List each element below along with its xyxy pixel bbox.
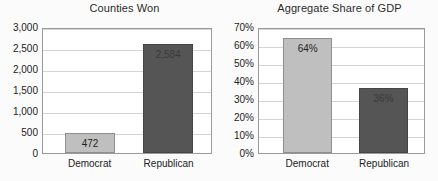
y-axis-labels: 05001,0001,5002,0002,5003,000 (0, 28, 38, 154)
bar-republican: 2,584 (143, 44, 193, 153)
y-axis-tick-label: 70% (234, 23, 254, 33)
chart-counties-won: Counties Won 05001,0001,5002,0002,5003,0… (0, 0, 219, 181)
chart-title: Counties Won (0, 2, 219, 14)
y-axis-tick-label: 0% (240, 149, 254, 159)
bars-group: 64%36% (259, 29, 424, 153)
y-axis-tick-label: 20% (234, 113, 254, 123)
x-axis-labels: DemocratRepublican (42, 158, 212, 174)
y-axis-tick-label: 0 (32, 149, 38, 159)
bar-democrat: 64% (283, 38, 332, 153)
y-axis-tick-label: 2,500 (13, 44, 38, 54)
bar-value-label: 36% (360, 93, 407, 104)
y-axis-labels: 0%10%20%30%40%50%60%70% (219, 28, 254, 154)
bar-value-label: 472 (66, 138, 114, 149)
y-axis-tick-label: 60% (234, 41, 254, 51)
y-axis-tick-label: 40% (234, 77, 254, 87)
y-axis-tick-label: 2,000 (13, 65, 38, 75)
y-axis-tick-label: 1,500 (13, 86, 38, 96)
plot-area: 64%36% (258, 28, 425, 154)
bar-value-label: 2,584 (144, 49, 192, 60)
y-axis-tick-label: 3,000 (13, 23, 38, 33)
bar-democrat: 472 (65, 133, 115, 153)
x-axis-tick-label: Republican (359, 158, 409, 170)
x-axis-tick-label: Republican (144, 158, 194, 170)
chart-title: Aggregate Share of GDP (219, 2, 438, 14)
plot-area: 4722,584 (42, 28, 212, 154)
bar-value-label: 64% (284, 43, 331, 54)
y-axis-tick-label: 500 (21, 128, 38, 138)
x-axis-tick-label: Democrat (286, 158, 329, 170)
chart-aggregate-share-of-gdp: Aggregate Share of GDP 0%10%20%30%40%50%… (219, 0, 438, 181)
bars-group: 4722,584 (43, 29, 211, 153)
y-axis-tick-label: 30% (234, 95, 254, 105)
x-axis-labels: DemocratRepublican (258, 158, 425, 174)
y-axis-tick-label: 10% (234, 131, 254, 141)
y-axis-tick-label: 1,000 (13, 107, 38, 117)
bar-republican: 36% (359, 88, 408, 153)
x-axis-tick-label: Democrat (68, 158, 111, 170)
dual-bar-chart-figure: Counties Won 05001,0001,5002,0002,5003,0… (0, 0, 438, 181)
y-axis-tick-label: 50% (234, 59, 254, 69)
